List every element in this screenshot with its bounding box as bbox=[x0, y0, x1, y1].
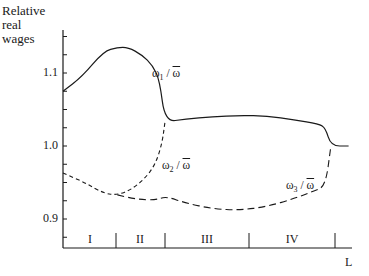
series-line-3 bbox=[117, 146, 331, 210]
y-axis-label-line: real bbox=[2, 18, 45, 32]
series-label-omega2: ω2 / ω bbox=[162, 159, 190, 174]
section-label: II bbox=[120, 232, 160, 247]
series-label-omega1: ω1 / ω bbox=[152, 67, 180, 82]
y-axis-label-line: wages bbox=[2, 32, 45, 46]
y-tick-label: 1.0 bbox=[28, 138, 58, 153]
y-tick-label: 1.1 bbox=[28, 65, 58, 80]
x-axis-label: L bbox=[345, 255, 352, 270]
section-label: I bbox=[70, 232, 110, 247]
series-line-2 bbox=[63, 122, 165, 194]
series-label-omega3: ω3 / ω bbox=[286, 179, 314, 194]
y-axis-label: Relative real wages bbox=[2, 4, 45, 46]
section-label: IV bbox=[272, 232, 312, 247]
y-tick-label: 0.9 bbox=[28, 211, 58, 226]
y-axis-label-line: Relative bbox=[2, 4, 45, 18]
section-label: III bbox=[187, 232, 227, 247]
series-line-1 bbox=[63, 47, 349, 146]
